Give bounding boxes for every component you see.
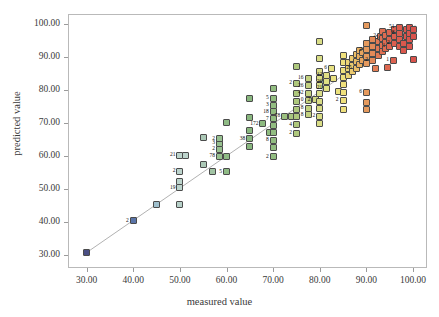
data-point <box>316 113 323 120</box>
x-tick-mark <box>366 268 367 272</box>
data-point <box>372 65 379 72</box>
data-point <box>130 217 137 224</box>
data-point <box>340 106 347 113</box>
data-point <box>223 153 230 160</box>
data-point <box>246 127 253 134</box>
data-point-count-label: 2 <box>163 168 175 174</box>
data-point-count-label: 2 <box>203 136 215 142</box>
x-tick-mark <box>180 268 181 272</box>
data-point-count-label: 3 <box>257 102 269 108</box>
data-point-count-label: 6 <box>350 89 362 95</box>
data-point-count-label: 8 <box>257 137 269 143</box>
data-point-count-label: 38 <box>233 136 245 142</box>
y-tick-mark <box>64 222 68 223</box>
data-point <box>176 178 183 185</box>
data-point <box>223 168 230 175</box>
data-point <box>316 98 323 105</box>
y-tick-mark <box>64 156 68 157</box>
data-point <box>410 56 417 63</box>
data-point <box>316 55 323 62</box>
data-point <box>340 89 347 96</box>
data-point <box>176 201 183 208</box>
data-point <box>182 152 189 159</box>
data-point <box>176 184 183 191</box>
data-point-count-label: 2 <box>117 218 129 224</box>
data-point <box>316 90 323 97</box>
data-point-count-label: 8 <box>292 112 304 118</box>
data-point <box>270 85 277 92</box>
data-point <box>293 121 300 128</box>
data-point <box>216 135 223 142</box>
data-point <box>246 143 253 150</box>
data-point <box>406 43 413 50</box>
y-tick-label: 40.00 <box>14 216 60 226</box>
y-tick-mark <box>64 90 68 91</box>
data-point-count-label: 2 <box>257 154 269 160</box>
data-point <box>246 95 253 102</box>
data-point <box>316 38 323 45</box>
data-point-count-label: 172 <box>246 121 258 127</box>
data-point <box>305 105 312 112</box>
x-axis-title: measured value <box>0 296 439 307</box>
data-point <box>223 119 230 126</box>
data-point-count-label: 2 <box>280 130 292 136</box>
data-point-count-label: 6 <box>315 65 327 71</box>
data-point-count-label: 2 <box>303 113 315 119</box>
data-point-count-label: 8 <box>383 30 395 36</box>
data-point <box>153 201 160 208</box>
data-point <box>200 161 207 168</box>
data-point <box>270 153 277 160</box>
data-point <box>270 102 277 109</box>
data-point-count-label: 26 <box>310 79 322 85</box>
data-point-count-label: 78 <box>203 153 215 159</box>
x-tick-mark <box>133 268 134 272</box>
data-point <box>363 89 370 96</box>
data-point <box>330 75 337 82</box>
data-point <box>216 153 223 160</box>
data-point-count-label: 21 <box>310 85 322 91</box>
data-point <box>246 135 253 142</box>
x-tick-mark <box>227 268 228 272</box>
data-point <box>270 129 277 136</box>
data-point-count-label: 5 <box>257 95 269 101</box>
data-point <box>83 249 90 256</box>
data-point <box>323 78 330 85</box>
data-point <box>363 22 370 29</box>
data-point-count-label: 7 <box>257 116 269 122</box>
y-tick-label: 50.00 <box>14 183 60 193</box>
y-tick-mark <box>64 123 68 124</box>
data-point <box>328 65 335 72</box>
data-point-count-label: 2 <box>280 80 292 86</box>
y-tick-label: 100.00 <box>14 18 60 28</box>
y-tick-mark <box>64 189 68 190</box>
data-point-count-label: 5 <box>366 35 378 41</box>
data-point <box>340 97 347 104</box>
data-point-count-label: 5 <box>210 169 222 175</box>
data-point-count-label: 25 <box>340 65 352 71</box>
data-point <box>410 33 417 40</box>
y-tick-mark <box>64 57 68 58</box>
data-point <box>390 57 397 64</box>
data-point-count-label: 78 <box>268 113 280 119</box>
data-point-count-label: 19 <box>163 185 175 191</box>
data-point <box>340 52 347 59</box>
data-point-count-label: 42 <box>292 90 304 96</box>
data-point <box>396 24 403 31</box>
data-point <box>363 106 370 113</box>
data-point-count-label: 2 <box>350 47 362 53</box>
x-tick-label: 100.00 <box>386 275 439 285</box>
data-point-count-label: 21 <box>163 152 175 158</box>
y-tick-mark <box>64 24 68 25</box>
data-point <box>323 72 330 79</box>
data-point-count-label: 18 <box>257 109 269 115</box>
y-tick-label: 30.00 <box>14 249 60 259</box>
data-point-count-label: 2 <box>378 40 390 46</box>
data-point <box>316 105 323 112</box>
data-point <box>270 95 277 102</box>
y-tick-mark <box>64 255 68 256</box>
data-point <box>323 85 330 92</box>
data-point-count-label: 2 <box>203 146 215 152</box>
x-tick-mark <box>413 268 414 272</box>
data-point <box>340 81 347 88</box>
data-point <box>363 99 370 106</box>
